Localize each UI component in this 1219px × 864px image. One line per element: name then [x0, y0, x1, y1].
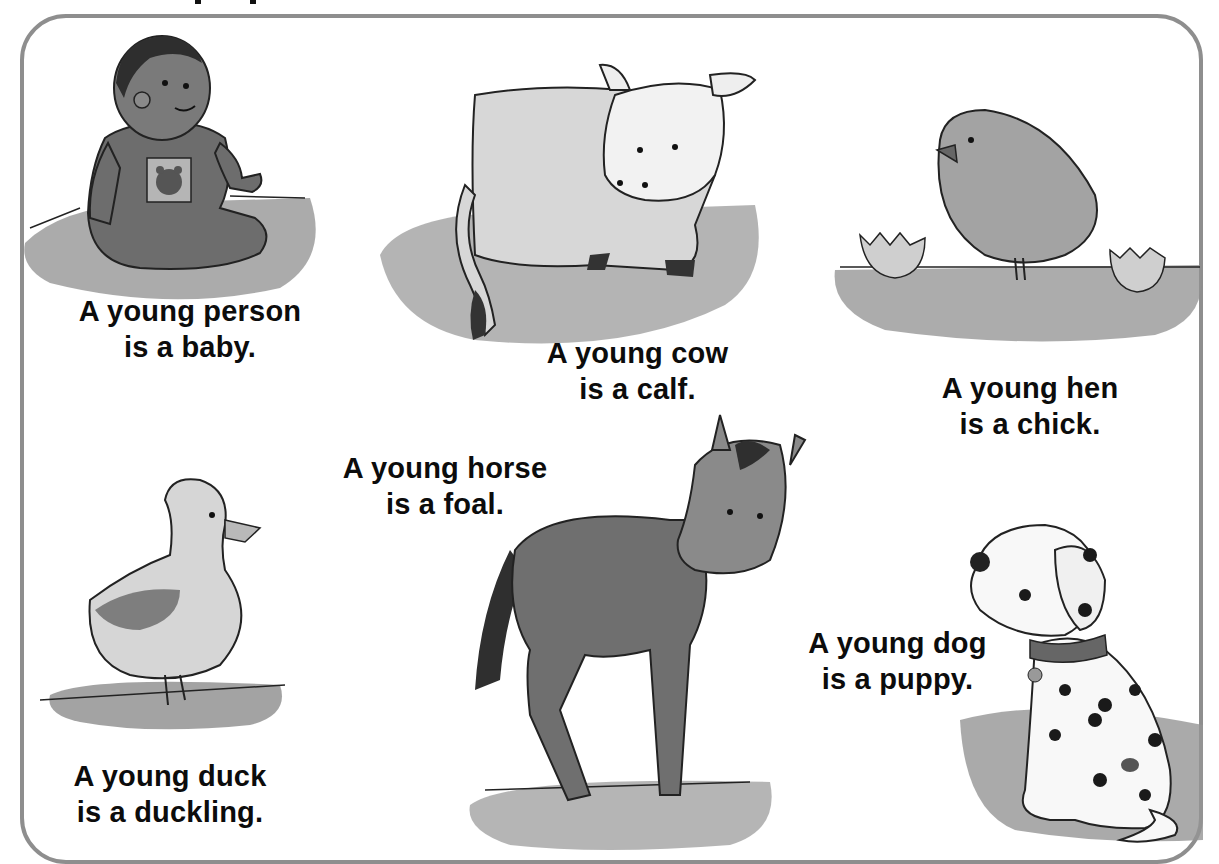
caption-line-2: is a puppy.	[790, 661, 1005, 697]
caption-line-2: is a baby.	[55, 329, 325, 365]
calf-caption: A young cow is a calf.	[540, 335, 735, 407]
foal-caption: A young horse is a foal.	[320, 450, 570, 522]
page-heading-clipped	[0, 0, 400, 4]
caption-line-1: A young cow	[540, 335, 735, 371]
caption-line-2: is a chick.	[915, 406, 1145, 442]
duckling-caption: A young duck is a duckling.	[40, 758, 300, 830]
caption-line-1: A young horse	[320, 450, 570, 486]
caption-line-2: is a calf.	[540, 371, 735, 407]
caption-line-1: A young person	[55, 293, 325, 329]
puppy-caption: A young dog is a puppy.	[790, 625, 1005, 697]
caption-line-1: A young hen	[915, 370, 1145, 406]
baby-caption: A young person is a baby.	[55, 293, 325, 365]
duckling-illustration	[30, 460, 310, 730]
chick-caption: A young hen is a chick.	[915, 370, 1145, 442]
chick-illustration	[825, 70, 1210, 350]
caption-line-2: is a foal.	[320, 486, 570, 522]
caption-line-1: A young duck	[40, 758, 300, 794]
baby-illustration	[20, 28, 330, 308]
caption-line-1: A young dog	[790, 625, 1005, 661]
calf-illustration	[375, 55, 775, 355]
caption-line-2: is a duckling.	[40, 794, 300, 830]
